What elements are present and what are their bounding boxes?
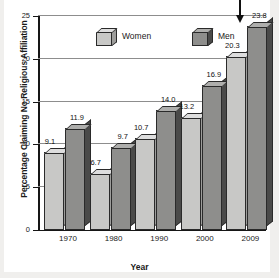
x-tick-label-2000: 2000 — [182, 234, 228, 243]
bar-front-face — [65, 128, 85, 230]
x-tick-label-1980: 1980 — [91, 234, 137, 243]
bar-value-label: 20.3 — [215, 41, 249, 50]
bar-front-face — [90, 173, 110, 230]
bar-value-label: 6.7 — [79, 158, 113, 167]
bar-front-face — [202, 85, 222, 230]
y-tick-mark — [33, 230, 38, 231]
x-tick-label-2009: 2009 — [227, 234, 273, 243]
chart-figure: Percentage Claiming No Religious Affilia… — [0, 0, 279, 278]
y-tick-label: 5 — [8, 182, 30, 191]
bar-men-1970 — [65, 128, 85, 230]
bar-women-1970 — [44, 152, 64, 230]
bar-women-2009 — [226, 56, 246, 230]
annotation-arrow-icon — [236, 0, 245, 23]
legend-label: Women — [122, 31, 151, 41]
swatch-front-face — [96, 32, 112, 46]
bar-value-label: 10.7 — [124, 123, 158, 132]
y-tick-label: 0 — [8, 225, 30, 234]
bar-front-face — [135, 138, 155, 230]
bar-men-1980 — [111, 147, 131, 230]
women-cube-icon — [96, 28, 112, 42]
x-tick-label-1970: 1970 — [45, 234, 91, 243]
plot-area: 9.111.96.79.710.714.013.216.920.323.8 — [38, 16, 266, 230]
y-tick-label: 25 — [8, 11, 30, 20]
bar-front-face — [156, 110, 176, 230]
gridline — [38, 15, 266, 16]
bar-value-label: 23.8 — [242, 11, 276, 20]
y-tick-label: 15 — [8, 97, 30, 106]
bar-men-2009 — [247, 26, 267, 230]
bar-front-face — [181, 117, 201, 230]
bar-value-label: 11.9 — [60, 113, 94, 122]
y-axis-title: Percentage Claiming No Religious Affilia… — [19, 9, 29, 209]
arrow-head — [236, 15, 244, 23]
legend-label: Men — [218, 31, 235, 41]
bar-front-face — [111, 147, 131, 230]
bar-front-face — [44, 152, 64, 230]
x-tick-label-1990: 1990 — [136, 234, 182, 243]
bar-front-face — [247, 26, 267, 230]
bar-value-label: 13.2 — [170, 102, 204, 111]
bar-side-face — [267, 18, 273, 226]
bar-men-1990 — [156, 110, 176, 230]
x-axis-title: Year — [0, 262, 279, 272]
y-tick-label: 10 — [8, 139, 30, 148]
men-cube-icon — [192, 28, 208, 42]
y-tick-label: 20 — [8, 54, 30, 63]
bar-women-1980 — [90, 173, 110, 230]
swatch-front-face — [192, 32, 208, 46]
bar-women-1990 — [135, 138, 155, 230]
bar-women-2000 — [181, 117, 201, 230]
x-axis-line — [38, 230, 266, 231]
bar-front-face — [226, 56, 246, 230]
bar-men-2000 — [202, 85, 222, 230]
bar-value-label: 9.1 — [33, 137, 67, 146]
